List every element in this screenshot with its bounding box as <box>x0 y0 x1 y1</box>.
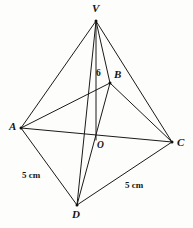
geometry-figure: VBACDO65 cm5 cm <box>0 0 193 228</box>
vertex-point-a <box>20 127 23 130</box>
edge-ab <box>21 83 110 128</box>
edges-group <box>21 21 172 205</box>
figure-canvas <box>0 0 193 228</box>
vertex-label-c: C <box>177 137 184 148</box>
vertex-point-c <box>171 141 174 144</box>
vertex-label-a: A <box>9 121 16 132</box>
vertex-label-b: B <box>114 69 121 80</box>
measurement-label-height-6: 6 <box>96 69 101 79</box>
vertex-point-d <box>76 204 79 207</box>
edge-va <box>21 21 96 128</box>
vertex-label-v: V <box>92 3 99 14</box>
vertex-label-d: D <box>72 209 80 220</box>
vertex-label-o: O <box>97 141 104 151</box>
vertex-point-b <box>109 82 112 85</box>
vertex-point-v <box>95 20 98 23</box>
measurement-label-edge-dc-5cm: 5 cm <box>125 181 143 190</box>
measurement-label-edge-ad-5cm: 5 cm <box>22 171 40 180</box>
edge-vc <box>96 21 172 142</box>
edge-ad <box>21 128 77 205</box>
edge-vd <box>77 21 96 205</box>
